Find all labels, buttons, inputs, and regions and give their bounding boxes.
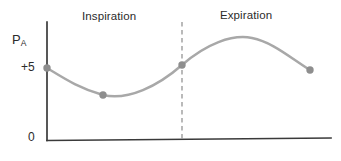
chart-canvas: [0, 0, 341, 161]
y-axis-title-main: P: [12, 32, 21, 47]
y-axis-title-subscript: A: [21, 38, 27, 48]
alveolar-pressure-curve: [47, 37, 310, 96]
alveolar-pressure-figure: PA +5 0 Inspiration Expiration: [0, 0, 341, 161]
phase-label-expiration: Expiration: [220, 9, 272, 22]
y-axis-tick-label-zero: 0: [28, 131, 35, 144]
data-point-marker: [99, 91, 106, 98]
x-axis-line: [47, 138, 331, 141]
data-point-marker: [43, 64, 50, 71]
data-point-marker: [178, 61, 185, 68]
phase-label-inspiration: Inspiration: [82, 10, 136, 23]
data-point-marker: [306, 66, 313, 73]
y-axis-title: PA: [12, 32, 26, 51]
y-axis-tick-label-plus5: +5: [21, 61, 35, 74]
